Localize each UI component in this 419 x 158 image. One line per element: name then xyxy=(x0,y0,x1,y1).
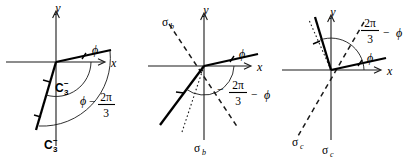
svg-text:σ: σ xyxy=(292,136,299,148)
mirror-label-top-sigma-b: σ b xyxy=(162,16,174,31)
angle-expression-sigma-c: 2π 3 − ϕ xyxy=(361,17,402,45)
svg-text:σ: σ xyxy=(322,144,329,156)
expr-second-minus: − xyxy=(251,88,258,100)
panel-c-canvas: y x ϕ 2π 3 − ϕ σ c σ c xyxy=(278,0,419,158)
angle-expression-sigma-b: − 2π 3 − ϕ xyxy=(217,79,270,107)
panel-c3-minus: y x ϕ C 3 − ϕ − 2π 3 C 3 − xyxy=(0,0,140,158)
svg-text:b: b xyxy=(202,148,206,157)
panel-a-canvas: y x ϕ C 3 − ϕ − 2π 3 C 3 − xyxy=(0,0,140,158)
inner-arc-label-c3minus: C 3 − xyxy=(55,79,69,97)
bottom-label-c3minus: C 3 − xyxy=(44,136,58,154)
expr-denominator: 3 xyxy=(235,95,241,107)
svg-text:C: C xyxy=(55,81,64,95)
panel-sigma-c: y x ϕ 2π 3 − ϕ σ c σ c xyxy=(278,0,419,158)
expr-numerator: 2π xyxy=(100,91,112,103)
image-ray-tick-1 xyxy=(43,80,50,82)
expr-phi: ϕ xyxy=(264,88,270,102)
svg-text:b: b xyxy=(170,22,174,31)
svg-text:σ: σ xyxy=(162,16,169,28)
mirror-label-bottom-sigma-b: σ b xyxy=(194,142,206,157)
image-ray-sigma-b xyxy=(160,66,204,125)
svg-text:c: c xyxy=(330,150,334,158)
phi-label: ϕ xyxy=(92,43,98,57)
image-ray-sigma-c xyxy=(315,17,331,70)
panel-sigma-b: y x ϕ σ b σ b − 2π 3 − ϕ xyxy=(138,0,282,158)
y-axis-label: y xyxy=(329,5,336,19)
svg-text:σ: σ xyxy=(194,142,201,154)
expr-leading-minus: − xyxy=(217,83,224,95)
x-axis-label: x xyxy=(386,64,393,78)
mirror-label-bottom-sigma-c: σ c xyxy=(322,144,334,158)
phi-label: ϕ xyxy=(239,47,245,61)
x-axis-label: x xyxy=(110,56,117,70)
expr-minus: − xyxy=(89,95,96,107)
outer-arc-label-expression: ϕ − 2π 3 xyxy=(80,91,115,119)
expr-denominator: 3 xyxy=(367,33,373,45)
y-axis-label: y xyxy=(54,1,61,15)
phi-label: ϕ xyxy=(367,51,373,65)
symmetry-operation-figure: y x ϕ C 3 − ϕ − 2π 3 C 3 − xyxy=(0,0,419,158)
expr-denominator: 3 xyxy=(103,107,109,119)
panel-b-canvas: y x ϕ σ b σ b − 2π 3 − ϕ xyxy=(138,0,282,158)
svg-text:−: − xyxy=(64,79,69,88)
svg-text:c: c xyxy=(300,142,304,151)
mirror-label-left-sigma-c: σ c xyxy=(292,136,304,151)
svg-text:−: − xyxy=(53,136,58,145)
x-axis-label: x xyxy=(256,60,263,74)
expr-phi: ϕ xyxy=(80,94,86,108)
y-axis-label: y xyxy=(202,3,209,17)
expr-numerator: 2π xyxy=(364,17,376,29)
dotted-helper-line xyxy=(182,66,204,132)
svg-text:C: C xyxy=(44,138,53,152)
expr-minus: − xyxy=(383,26,390,38)
image-ray-tick xyxy=(176,92,184,93)
expr-numerator: 2π xyxy=(232,79,244,91)
expr-phi: ϕ xyxy=(396,26,402,40)
svg-text:3: 3 xyxy=(64,88,69,97)
svg-text:3: 3 xyxy=(53,145,58,154)
